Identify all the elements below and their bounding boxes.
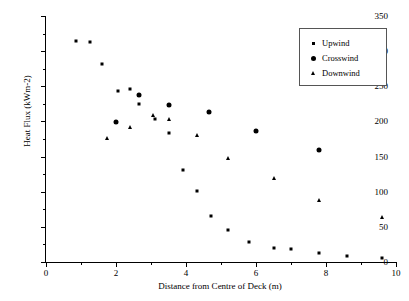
data-point-upwind xyxy=(227,228,230,231)
y-tick-label: 100 xyxy=(375,187,389,196)
y-tick-major xyxy=(41,86,46,87)
x-tick-label: 6 xyxy=(254,269,259,278)
y-tick-major xyxy=(41,157,46,158)
x-tick-minor xyxy=(221,262,222,265)
data-point-upwind xyxy=(248,241,251,244)
data-point-downwind xyxy=(317,198,321,202)
y-tick-major xyxy=(41,121,46,122)
y-tick-label: 50 xyxy=(379,222,388,231)
x-tick-major xyxy=(256,262,257,267)
data-point-upwind xyxy=(195,190,198,193)
y-tick-minor xyxy=(43,34,46,35)
x-tick-major xyxy=(116,262,117,267)
data-point-downwind xyxy=(128,125,132,129)
y-axis-title: Heat Flux (kWm-2) xyxy=(22,31,32,191)
data-point-upwind xyxy=(290,248,293,251)
x-tick-minor xyxy=(361,262,362,265)
downwind-marker-icon xyxy=(308,71,318,75)
x-tick-minor xyxy=(151,262,152,265)
x-tick-minor xyxy=(291,262,292,265)
data-point-downwind xyxy=(167,117,171,121)
y-tick-major xyxy=(41,227,46,228)
data-point-upwind xyxy=(318,251,321,254)
x-tick-label: 2 xyxy=(114,269,119,278)
x-tick-major xyxy=(46,262,47,267)
chart-legend: Upwind Crosswind Downwind xyxy=(299,28,387,86)
x-tick-minor xyxy=(81,262,82,265)
data-point-crosswind xyxy=(206,109,211,114)
x-tick-major xyxy=(326,262,327,267)
y-tick-major xyxy=(41,16,46,17)
crosswind-marker-icon xyxy=(308,56,318,61)
x-axis-title: Distance from Centre of Deck (m) xyxy=(45,281,395,291)
y-tick-minor xyxy=(43,209,46,210)
data-point-upwind xyxy=(181,168,184,171)
y-tick-major xyxy=(41,192,46,193)
data-point-crosswind xyxy=(166,103,171,108)
y-tick-minor xyxy=(43,69,46,70)
legend-item-downwind[interactable]: Downwind xyxy=(308,67,360,79)
y-tick-minor xyxy=(43,104,46,105)
data-point-downwind xyxy=(151,113,155,117)
y-tick-label: 200 xyxy=(375,117,389,126)
x-tick-label: 8 xyxy=(324,269,329,278)
data-point-crosswind xyxy=(254,128,259,133)
data-point-downwind xyxy=(226,156,230,160)
data-point-upwind xyxy=(167,131,170,134)
y-tick-minor xyxy=(43,174,46,175)
data-point-upwind xyxy=(129,88,132,91)
x-tick-label: 0 xyxy=(44,269,49,278)
legend-label-upwind: Upwind xyxy=(322,39,349,48)
data-point-downwind xyxy=(195,133,199,137)
legend-label-downwind: Downwind xyxy=(322,69,360,78)
y-tick-label: 0 xyxy=(384,258,389,267)
data-point-upwind xyxy=(209,214,212,217)
data-point-crosswind xyxy=(136,92,141,97)
data-point-upwind xyxy=(153,118,156,121)
data-point-crosswind xyxy=(317,147,322,152)
y-tick-label: 150 xyxy=(375,152,389,161)
y-tick-major xyxy=(41,51,46,52)
legend-item-upwind[interactable]: Upwind xyxy=(308,37,349,49)
data-point-upwind xyxy=(272,246,275,249)
y-tick-minor xyxy=(43,244,46,245)
y-tick-label: 350 xyxy=(375,12,389,21)
data-point-downwind xyxy=(272,176,276,180)
upwind-marker-icon xyxy=(308,42,318,45)
data-point-downwind xyxy=(380,215,384,219)
legend-label-crosswind: Crosswind xyxy=(322,54,358,63)
data-point-crosswind xyxy=(114,120,119,125)
data-point-upwind xyxy=(137,102,140,105)
x-tick-label: 4 xyxy=(184,269,189,278)
data-point-upwind xyxy=(74,39,77,42)
x-tick-major xyxy=(186,262,187,267)
data-point-upwind xyxy=(116,90,119,93)
data-point-downwind xyxy=(105,136,109,140)
data-point-upwind xyxy=(346,255,349,258)
x-tick-major xyxy=(396,262,397,267)
y-tick-minor xyxy=(43,139,46,140)
data-point-upwind xyxy=(101,63,104,66)
chart-figure: 050100150200250300350 0246810 Distance f… xyxy=(0,0,409,301)
data-point-upwind xyxy=(88,41,91,44)
legend-item-crosswind[interactable]: Crosswind xyxy=(308,52,358,64)
x-tick-label: 10 xyxy=(392,269,401,278)
